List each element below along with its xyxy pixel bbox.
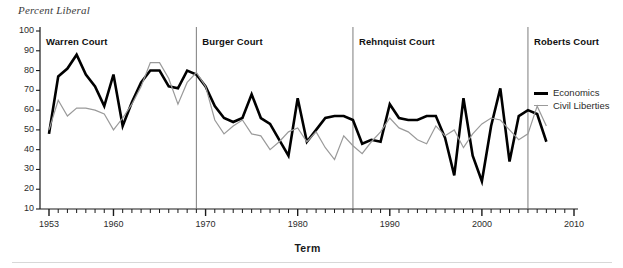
x-tick-label: 1980 xyxy=(278,219,318,229)
era-label-burger: Burger Court xyxy=(202,36,262,47)
y-axis-label: Percent Liberal xyxy=(18,4,90,16)
y-tick-label: 40 xyxy=(12,144,34,154)
legend-label-1: Civil Liberties xyxy=(553,100,610,111)
x-tick-label: 2010 xyxy=(554,219,594,229)
x-tick-label: 1990 xyxy=(370,219,410,229)
era-label-warren: Warren Court xyxy=(46,36,108,47)
x-tick-label: 1953 xyxy=(29,219,69,229)
y-tick-label: 10 xyxy=(12,203,34,213)
y-tick-label: 50 xyxy=(12,124,34,134)
y-tick-label: 70 xyxy=(12,84,34,94)
y-tick-label: 80 xyxy=(12,65,34,75)
chart-figure: Percent Liberal Term 1020304050607080901… xyxy=(0,0,623,268)
bottom-divider-rule xyxy=(12,262,612,263)
y-tick-label: 20 xyxy=(12,183,34,193)
x-axis-label: Term xyxy=(0,242,623,254)
y-tick-label: 60 xyxy=(12,104,34,114)
era-label-rehnquist: Rehnquist Court xyxy=(359,36,435,47)
series-line-economics xyxy=(49,55,546,182)
legend-swatch-1 xyxy=(534,105,548,106)
x-tick-label: 2000 xyxy=(462,219,502,229)
era-label-roberts: Roberts Court xyxy=(534,36,599,47)
y-tick-label: 30 xyxy=(12,163,34,173)
legend-label-0: Economics xyxy=(553,87,599,98)
x-tick-label: 1970 xyxy=(186,219,226,229)
y-tick-label: 100 xyxy=(12,25,34,35)
x-tick-label: 1960 xyxy=(93,219,133,229)
y-tick-label: 90 xyxy=(12,45,34,55)
legend-swatch-0 xyxy=(534,92,548,95)
